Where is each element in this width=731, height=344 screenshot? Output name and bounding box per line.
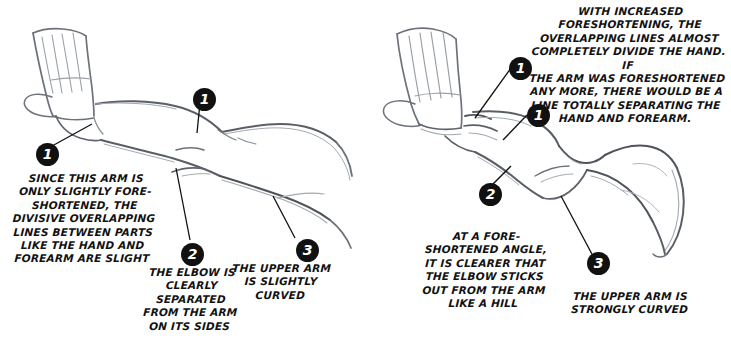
caption-right-main: WITH INCREASED FORESHORTENING, THE OVERL… <box>525 5 731 126</box>
caption-right-upper-arm: THE UPPER ARM IS STRONGLY CURVED <box>559 290 700 317</box>
leader-left-3 <box>273 196 295 238</box>
leader-left-2 <box>176 168 190 240</box>
badge-left-1b[interactable]: 1 <box>193 88 216 111</box>
badge-right-2[interactable]: 2 <box>479 183 502 206</box>
badge-right-1a[interactable]: 1 <box>509 57 532 80</box>
diagram-stage: 1 1 2 3 SINCE THIS ARM IS ONLY SLIGHTLY … <box>0 0 731 344</box>
leader-left-1a <box>52 124 92 146</box>
badge-left-2[interactable]: 2 <box>181 243 204 266</box>
caption-right-elbow: AT A FORE- SHORTENED ANGLE, IT IS CLEARE… <box>418 230 552 310</box>
caption-left-upper-arm: THE UPPER ARM IS SLIGHTLY CURVED <box>230 262 332 302</box>
caption-left-main: SINCE THIS ARM IS ONLY SLIGHTLY FORE- SH… <box>2 172 167 266</box>
panel-strongly-foreshortened: 1 1 2 3 WITH INCREASED FORESHORTENING, T… <box>365 0 731 344</box>
badge-left-1a[interactable]: 1 <box>36 143 59 166</box>
badge-left-3[interactable]: 3 <box>296 239 319 262</box>
panel-slightly-foreshortened: 1 1 2 3 SINCE THIS ARM IS ONLY SLIGHTLY … <box>0 0 365 344</box>
leader-right-3 <box>561 196 593 256</box>
badge-right-1b[interactable]: 1 <box>527 104 550 127</box>
badge-right-3[interactable]: 3 <box>587 252 610 275</box>
